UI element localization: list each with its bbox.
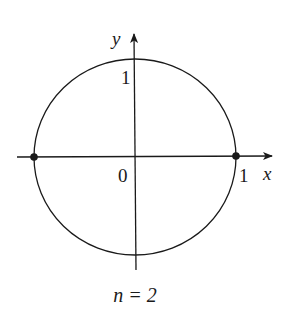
origin-label: 0 bbox=[118, 165, 128, 186]
unit-circle-diagram: y 1 0 1 x n = 2 bbox=[0, 0, 294, 312]
y-tick-label: 1 bbox=[121, 67, 131, 88]
y-axis-label: y bbox=[110, 28, 121, 49]
point-pos-one bbox=[232, 152, 240, 160]
x-tick-label: 1 bbox=[239, 165, 249, 186]
point-neg-one bbox=[30, 153, 38, 161]
caption: n = 2 bbox=[113, 284, 157, 306]
x-axis-label: x bbox=[262, 163, 272, 184]
y-axis bbox=[134, 34, 136, 270]
